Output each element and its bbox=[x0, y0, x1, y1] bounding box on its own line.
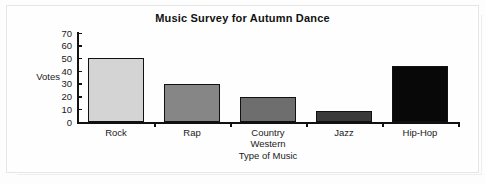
y-tick-label: 0 bbox=[52, 117, 72, 128]
y-tick-label: 40 bbox=[52, 66, 72, 77]
bar-rap bbox=[164, 84, 220, 122]
y-tick-label: 70 bbox=[52, 28, 72, 39]
y-tick-label: 30 bbox=[52, 78, 72, 89]
chart-figure: Music Survey for Autumn Dance Votes 7060… bbox=[0, 0, 485, 184]
x-category-label: CountryWestern bbox=[230, 127, 306, 149]
x-tick-mark bbox=[458, 122, 460, 127]
x-category-line: Rap bbox=[183, 127, 200, 138]
x-category-label: Rock bbox=[78, 127, 154, 138]
bar-rock bbox=[88, 58, 144, 122]
x-category-line: Hip-Hop bbox=[403, 127, 438, 138]
x-category-label: Rap bbox=[154, 127, 230, 138]
chart-title: Music Survey for Autumn Dance bbox=[0, 12, 485, 24]
y-tick-label: 60 bbox=[52, 40, 72, 51]
x-category-line: Rock bbox=[105, 127, 127, 138]
bar-hip-hop bbox=[392, 66, 448, 122]
x-category-line: Western bbox=[250, 138, 285, 149]
y-tick-label: 20 bbox=[52, 91, 72, 102]
x-category-label: Hip-Hop bbox=[382, 127, 458, 138]
x-category-label: Jazz bbox=[306, 127, 382, 138]
plot-area bbox=[78, 33, 458, 122]
y-tick-label: 10 bbox=[52, 104, 72, 115]
x-axis-line bbox=[77, 122, 459, 124]
x-axis-title: Type of Music bbox=[78, 150, 458, 161]
x-category-line: Country bbox=[251, 127, 284, 138]
bar-jazz bbox=[316, 111, 372, 122]
x-category-line: Jazz bbox=[334, 127, 354, 138]
bar-country-western bbox=[240, 97, 296, 122]
y-tick-label: 50 bbox=[52, 53, 72, 64]
